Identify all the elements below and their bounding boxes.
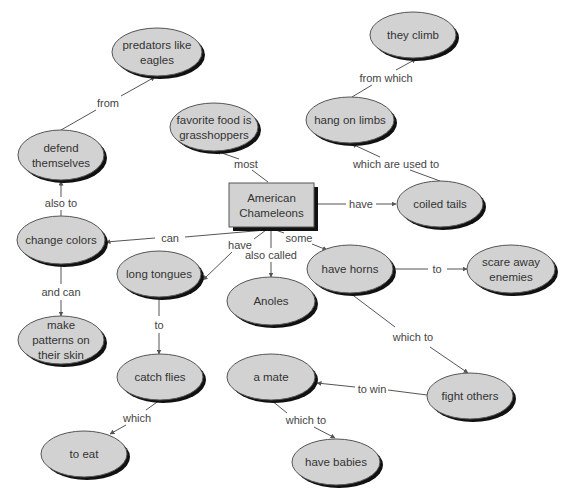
link-label: to [432, 263, 441, 275]
node-to-eat[interactable]: to eat [41, 431, 130, 480]
node-label: predators like [122, 39, 191, 51]
node-ellipse [170, 103, 258, 151]
node-label: favorite food is [177, 114, 252, 126]
arrow-icon [121, 77, 155, 96]
node-label: change colors [25, 234, 97, 246]
node-scare-away-enemies[interactable]: scare awayenemies [467, 245, 558, 296]
node-coiled-tails[interactable]: coiled tails [397, 181, 486, 230]
link-label: have [349, 198, 373, 210]
link-defend-themselves-to-predators-like-eagles: from [61, 77, 155, 130]
node-anoles[interactable]: Anoles [227, 277, 318, 328]
node-label: their skin [38, 349, 84, 361]
link-label: and can [41, 286, 80, 298]
node-change-colors[interactable]: change colors [17, 216, 108, 267]
arrow-icon [203, 252, 232, 280]
link-label: which are used to [352, 158, 439, 170]
connector-line [252, 170, 268, 182]
link-american-chameleons-to-coiled-tails: have [314, 198, 396, 210]
node-long-tongues[interactable]: long tongues [117, 251, 204, 300]
link-label: some [286, 232, 313, 244]
link-fight-others-to-a-mate: to win [317, 383, 427, 395]
arrow-icon [106, 238, 155, 242]
node-label: fight others [442, 390, 499, 402]
node-label: patterns on [32, 334, 90, 346]
node-have-horns[interactable]: have horns [307, 245, 396, 296]
node-make-patterns-on-their-skin[interactable]: makepatterns ontheir skin [18, 316, 107, 367]
link-american-chameleons-to-favorite-food-is-grasshoppers: most [216, 151, 268, 182]
link-long-tongues-to-catch-flies: to [154, 297, 163, 354]
node-label: grasshoppers [179, 129, 249, 141]
node-label: Chameleons [239, 207, 304, 219]
link-have-horns-to-fight-others: which to [350, 293, 468, 373]
concept-map: mosthavewhich are used tofrom whichcanal… [0, 0, 573, 498]
node-label: scare away [482, 256, 540, 268]
node-fight-others[interactable]: fight others [427, 373, 516, 422]
link-label: which [122, 412, 151, 424]
link-have-horns-to-scare-away-enemies: to [393, 263, 467, 275]
link-change-colors-to-defend-themselves: also to [45, 181, 77, 216]
node-label: themselves [32, 157, 90, 169]
node-hang-on-limbs[interactable]: hang on limbs [306, 97, 397, 146]
link-label: also called [245, 249, 297, 261]
link-label: also to [45, 197, 77, 209]
link-label: to [154, 319, 163, 331]
arrow-icon [110, 425, 126, 434]
root-node-american-chameleons[interactable]: AmericanChameleons [229, 183, 318, 231]
link-label: which to [392, 331, 433, 343]
arrow-icon [352, 144, 380, 157]
link-american-chameleons-to-have-horns: some [273, 229, 327, 250]
node-ellipse [467, 245, 555, 293]
link-label: from which [359, 72, 412, 84]
node-predators-like-eagles[interactable]: predators likeeagles [112, 28, 205, 79]
arrow-icon [314, 427, 335, 438]
node-have-babies[interactable]: have babies [292, 439, 383, 488]
link-label: from [97, 97, 119, 109]
link-hang-on-limbs-to-they-climb: from which [352, 59, 416, 97]
node-a-mate[interactable]: a mate [227, 354, 318, 403]
node-label: long tongues [126, 268, 192, 280]
node-ellipse [18, 130, 104, 180]
node-label: to eat [70, 448, 100, 460]
link-label: can [161, 232, 179, 244]
node-label: catch flies [134, 371, 185, 383]
connector-line [350, 293, 395, 327]
connector-line [388, 390, 427, 395]
link-a-mate-to-have-babies: which to [271, 400, 335, 438]
node-label: defend [43, 142, 78, 154]
node-label: American [247, 192, 296, 204]
arrow-icon [430, 347, 468, 373]
node-label: have horns [322, 263, 379, 275]
node-label: make [47, 319, 75, 331]
node-label: eagles [140, 54, 174, 66]
link-coiled-tails-to-hang-on-limbs: which are used to [352, 144, 440, 181]
node-label: coiled tails [413, 198, 467, 210]
connector-line [61, 110, 96, 130]
node-they-climb[interactable]: they climb [370, 12, 459, 61]
node-defend-themselves[interactable]: defendthemselves [18, 130, 107, 183]
node-label: a mate [253, 371, 288, 383]
node-label: hang on limbs [314, 114, 386, 126]
connector-line [185, 230, 266, 237]
connector-line [352, 85, 372, 97]
connector-line [410, 170, 440, 181]
link-label: most [234, 158, 258, 170]
node-ellipse [112, 28, 202, 76]
link-label: to win [358, 383, 387, 395]
node-label: enemies [489, 271, 533, 283]
node-label: Anoles [253, 295, 288, 307]
arrow-icon [317, 383, 355, 387]
node-catch-flies[interactable]: catch flies [117, 354, 206, 403]
link-change-colors-to-make-patterns-on-their-skin: and can [41, 264, 80, 316]
node-label: they climb [387, 29, 439, 41]
link-catch-flies-to-to-eat: which [110, 400, 160, 434]
node-box [229, 183, 314, 227]
node-label: have babies [305, 456, 367, 468]
link-label: which to [285, 414, 326, 426]
node-favorite-food-is-grasshoppers[interactable]: favorite food isgrasshoppers [170, 103, 261, 154]
